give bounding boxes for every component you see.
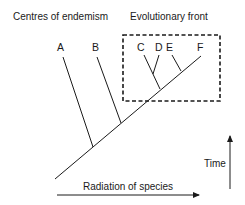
branch-d-line (153, 55, 159, 74)
main-trunk-line (55, 56, 201, 179)
species-label-a: A (57, 41, 64, 53)
heading-evolutionary-front: Evolutionary front (130, 11, 208, 22)
species-label-c: C (137, 41, 145, 53)
cladogram-diagram: Centres of endemism Evolutionary front A… (0, 0, 245, 205)
radiation-label: Radiation of species (83, 181, 173, 192)
species-label-b: B (92, 41, 99, 53)
branch-a-line (63, 57, 93, 147)
species-label-d: D (155, 41, 163, 53)
branch-b-line (97, 57, 121, 123)
branch-e-line (172, 55, 181, 71)
species-label-f: F (197, 41, 203, 53)
heading-centres-of-endemism: Centres of endemism (13, 11, 108, 22)
species-label-e: E (166, 41, 173, 53)
time-label: Time (204, 158, 226, 169)
